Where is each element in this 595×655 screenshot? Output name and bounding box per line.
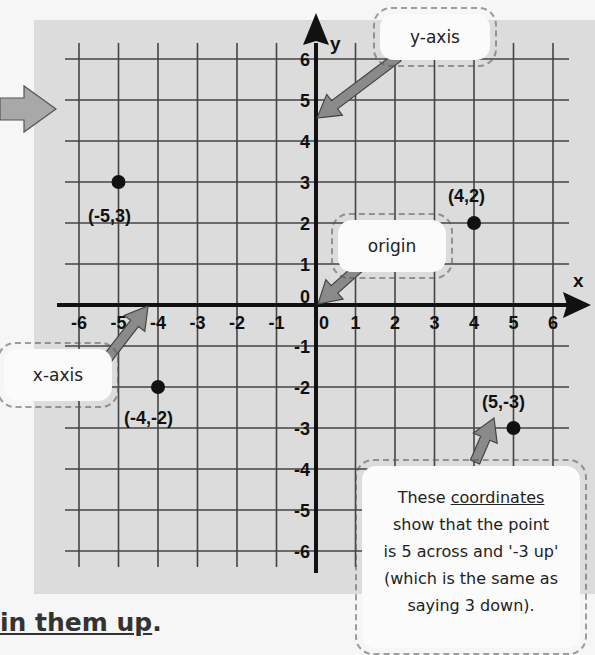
y-tick-label: -4 — [294, 460, 310, 480]
y-tick-label: -1 — [294, 337, 310, 357]
coordinates-term: coordinates — [451, 488, 545, 507]
data-point — [112, 175, 126, 189]
y-tick-label: 5 — [300, 91, 310, 111]
x-tick-label: 0 — [319, 313, 329, 333]
data-point — [151, 380, 165, 394]
note-line-5: saying 3 down). — [362, 592, 580, 619]
y-tick-label: -5 — [294, 501, 310, 521]
explanation-callout: These coordinates show that the point is… — [362, 466, 580, 648]
x-tick-label: 1 — [350, 313, 360, 333]
point-label: (5,-3) — [482, 392, 525, 413]
x-tick-label: 2 — [390, 313, 400, 333]
point-label: (-4,-2) — [124, 408, 173, 429]
y-tick-label: -6 — [294, 542, 310, 562]
note-line-1: These coordinates — [362, 484, 580, 511]
y-tick-label: 6 — [300, 50, 310, 70]
point-label: (4,2) — [448, 186, 485, 207]
y-tick-label: 0 — [300, 287, 310, 307]
x-tick-label: -1 — [268, 313, 284, 333]
x-tick-label: -3 — [189, 313, 205, 333]
y-tick-label: 1 — [300, 255, 310, 275]
note-line-3: is 5 across and '-3 up' — [362, 538, 580, 565]
callout-text: y-axis — [380, 14, 490, 60]
x-tick-label: -4 — [150, 313, 166, 333]
y-axis-callout: y-axis — [380, 14, 490, 60]
y-axis-letter: y — [330, 33, 341, 55]
note-line-4: (which is the same as — [362, 565, 580, 592]
x-axis-arrow-icon — [563, 292, 591, 318]
footer-text: in them up. — [0, 608, 162, 637]
x-tick-label: 3 — [429, 313, 439, 333]
x-axis-callout: x-axis — [4, 349, 112, 401]
note-line-2: show that the point — [362, 511, 580, 538]
footer-underlined: in them up — [0, 608, 152, 637]
y-tick-label: 4 — [300, 132, 310, 152]
x-tick-label: -6 — [71, 313, 87, 333]
data-point — [507, 421, 521, 435]
origin-callout: origin — [338, 220, 446, 272]
data-point — [467, 216, 481, 230]
y-tick-label: 2 — [300, 214, 310, 234]
y-axis-arrow-icon — [303, 13, 329, 45]
y-tick-label: 3 — [300, 173, 310, 193]
point-label: (-5,3) — [88, 206, 131, 227]
side-arrow-icon — [0, 86, 56, 132]
callout-text: origin — [338, 220, 446, 272]
x-tick-label: 5 — [508, 313, 518, 333]
x-axis-letter: x — [573, 270, 584, 292]
footer-punct: . — [152, 608, 162, 637]
y-tick-label: -3 — [294, 419, 310, 439]
callout-text: x-axis — [4, 349, 112, 401]
x-tick-label: 6 — [548, 313, 558, 333]
note-text: These — [398, 488, 451, 507]
x-tick-label: 4 — [469, 313, 479, 333]
y-tick-label: -2 — [294, 378, 310, 398]
x-tick-label: -2 — [229, 313, 245, 333]
